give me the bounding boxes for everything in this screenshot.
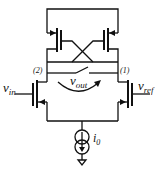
left-gate-cross xyxy=(61,41,93,62)
vin-label: vin xyxy=(3,80,16,97)
tail-current-source xyxy=(75,130,89,160)
current-arrow-icon xyxy=(79,147,85,152)
node2-label: (2) xyxy=(33,66,43,75)
source-arrow-icon xyxy=(50,30,56,36)
source-arrow-icon xyxy=(109,30,115,36)
source-arrow-icon xyxy=(39,99,45,105)
nmos-input-left xyxy=(15,80,47,121)
ground-icon xyxy=(78,160,86,165)
vout-label: vout xyxy=(70,73,88,90)
reset-switch xyxy=(47,67,118,73)
circuit-diagram: vin vref vout (2) (1) i0 xyxy=(0,0,163,177)
vref-label: vref xyxy=(138,78,155,95)
right-gate-cross xyxy=(72,41,104,62)
pmos-right xyxy=(72,28,118,62)
pmos-left xyxy=(47,28,93,62)
node1-label: (1) xyxy=(120,66,130,75)
source-arrow-icon xyxy=(120,99,126,105)
i0-label: i0 xyxy=(93,131,100,147)
